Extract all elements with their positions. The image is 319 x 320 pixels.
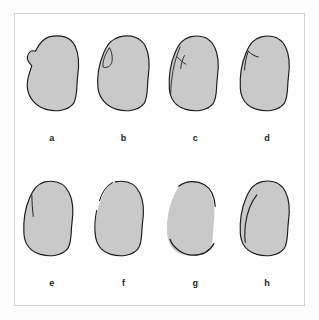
seed-fill-d: [240, 36, 289, 111]
panel-label-c: c: [193, 134, 198, 143]
panel-e: e: [16, 160, 88, 305]
seed-outline-g: [160, 160, 232, 277]
panel-label-f: f: [122, 279, 125, 288]
panel-label-a: a: [49, 134, 54, 143]
seed-outline-e: [16, 160, 88, 277]
seed-fill-b: [97, 36, 148, 111]
seed-outline-c: [160, 15, 232, 132]
panel-f: f: [88, 160, 160, 305]
seed-fill-h: [240, 181, 289, 256]
seed-fill-a: [27, 36, 78, 111]
panel-label-g: g: [193, 279, 199, 288]
panel-a: a: [16, 15, 88, 160]
panel-label-e: e: [49, 279, 54, 288]
seed-fill-c: [169, 36, 218, 111]
panel-b: b: [88, 15, 160, 160]
seed-fill-g: [167, 181, 214, 255]
panel-d: d: [231, 15, 303, 160]
seed-outline-d: [231, 15, 303, 132]
seed-fill-e: [24, 181, 73, 255]
panel-g: g: [160, 160, 232, 305]
panel-c: c: [160, 15, 232, 160]
panel-label-b: b: [121, 134, 127, 143]
panel-label-h: h: [264, 279, 270, 288]
panel-h: h: [231, 160, 303, 305]
seed-outline-h: [231, 160, 303, 277]
seed-outline-a: [16, 15, 88, 132]
panel-label-d: d: [264, 134, 270, 143]
seed-outline-f: [88, 160, 160, 277]
figure-plate: a b c: [0, 0, 319, 320]
panel-grid: a b c: [16, 15, 303, 304]
seed-outline-b: [88, 15, 160, 132]
